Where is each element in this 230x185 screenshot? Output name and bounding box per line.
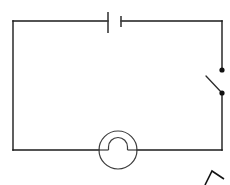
- switch-lower-terminal-icon[interactable]: [219, 90, 224, 95]
- switch-upper-terminal-icon[interactable]: [219, 67, 224, 72]
- caret-mark-icon: [205, 171, 224, 185]
- switch-blade-icon[interactable]: [206, 76, 222, 93]
- diagram-canvas: [0, 0, 230, 185]
- circuit-schematic: [0, 0, 230, 185]
- bell-dome-icon: [109, 138, 128, 151]
